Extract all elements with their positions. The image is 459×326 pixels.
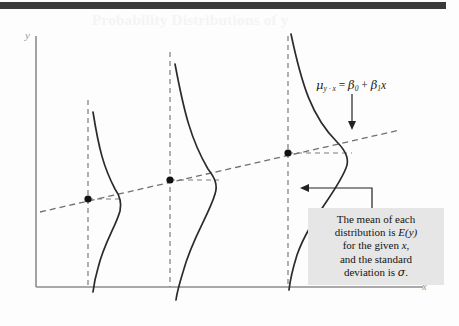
callout-line-5-post: . — [405, 266, 408, 278]
callout-line-2: distribution is E(y) — [312, 226, 440, 239]
equation-arrow — [348, 94, 356, 130]
callout-line-2-text: distribution is — [335, 226, 399, 238]
equals-sign: = — [339, 79, 346, 91]
callout-line-3: for the given x, — [312, 239, 440, 252]
distribution-curve-2 — [175, 64, 216, 300]
mean-dot-2 — [166, 176, 173, 183]
mean-dot-1 — [84, 195, 91, 202]
figure-root: Probability Distributions of y — [0, 0, 459, 326]
callout-line-4: and the standard — [312, 253, 440, 266]
callout-line-5: deviation is σ. — [312, 266, 440, 279]
callout-arrow — [300, 184, 372, 208]
y-axis-label: y — [25, 29, 30, 41]
callout-line-3-post: , — [407, 239, 410, 251]
callout-line-1: The mean of each — [312, 213, 440, 226]
equation-x-variable: x — [381, 79, 386, 91]
beta0-symbol: β — [348, 78, 355, 92]
beta0-subscript: 0 — [355, 84, 359, 93]
regression-line — [40, 130, 400, 212]
callout-line-2-math: E(y) — [398, 226, 417, 238]
regression-equation-label: μy · x = β0 + β1x — [316, 78, 386, 93]
mu-subscript: y · x — [323, 84, 335, 93]
callout-line-5-text: deviation is — [344, 266, 398, 278]
horizontal-connectors — [88, 153, 352, 199]
vertical-guide-lines — [88, 36, 288, 287]
distribution-curve-1 — [93, 112, 121, 292]
callout-line-3-text: for the given — [343, 239, 402, 251]
plus-sign: + — [361, 79, 368, 91]
mean-dot-3 — [284, 149, 291, 156]
callout-text-box: The mean of each distribution is E(y) fo… — [308, 208, 444, 285]
mean-dots — [84, 149, 291, 202]
